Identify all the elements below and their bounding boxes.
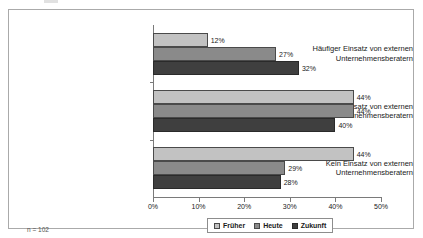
chart-frame: Häufiger Einsatz von externenUnternehmen… — [8, 9, 414, 229]
x-axis-tick — [199, 198, 200, 202]
bar[interactable] — [153, 104, 354, 118]
chart-figure: Häufiger Einsatz von externenUnternehmen… — [0, 0, 423, 238]
bar[interactable] — [153, 147, 354, 161]
legend-label-frueher: Früher — [223, 222, 245, 229]
x-axis-line — [153, 197, 382, 198]
bar-value-label: 44% — [357, 151, 371, 158]
bar-value-label: 27% — [279, 50, 293, 57]
bar[interactable] — [153, 90, 354, 104]
legend-item-0[interactable]: Früher — [214, 222, 245, 229]
bar-value-label: 28% — [284, 179, 298, 186]
scan-artifact — [44, 0, 58, 3]
legend-item-2[interactable]: Zukunft — [292, 222, 327, 229]
x-axis-tick — [244, 198, 245, 202]
category-label-line-0: Häufiger Einsatz von externen — [285, 44, 413, 54]
bar[interactable] — [153, 47, 276, 61]
x-axis-tick-label: 0% — [148, 203, 158, 210]
bar-value-label: 40% — [338, 122, 352, 129]
x-axis-tick — [335, 198, 336, 202]
bar[interactable] — [153, 175, 281, 189]
x-axis-tick — [290, 198, 291, 202]
sample-size-note: n = 102 — [27, 226, 49, 233]
legend-item-1[interactable]: Heute — [254, 222, 282, 229]
bar[interactable] — [153, 118, 335, 132]
bar-value-label: 12% — [211, 36, 225, 43]
bar-value-label: 44% — [357, 94, 371, 101]
x-axis-tick-label: 30% — [283, 203, 297, 210]
category-tick — [150, 82, 154, 83]
category-label-line-1: Unternehmensberatern — [285, 54, 413, 64]
legend-label-zukunft: Zukunft — [301, 222, 327, 229]
x-axis-tick-label: 10% — [192, 203, 206, 210]
bar[interactable] — [153, 61, 299, 75]
legend-swatch-frueher — [214, 223, 220, 229]
bar[interactable] — [153, 33, 208, 47]
x-axis-tick-label: 50% — [374, 203, 388, 210]
category-label: Häufiger Einsatz von externenUnternehmen… — [285, 44, 413, 63]
category-label: Kein Einsatz von externenUnternehmensber… — [285, 159, 413, 178]
x-axis-tick — [153, 198, 154, 202]
category-tick — [150, 140, 154, 141]
legend-label-heute: Heute — [263, 222, 282, 229]
x-axis-tick-label: 20% — [237, 203, 251, 210]
x-axis-tick-label: 40% — [328, 203, 342, 210]
legend-swatch-heute — [254, 223, 260, 229]
chart-legend: Früher Heute Zukunft — [207, 218, 333, 233]
legend-swatch-zukunft — [292, 223, 298, 229]
bar-value-label: 32% — [302, 64, 316, 71]
bar[interactable] — [153, 161, 285, 175]
bar-value-label: 44% — [357, 108, 371, 115]
category-label-line-1: Unternehmensberatern — [285, 168, 413, 178]
bar-value-label: 29% — [288, 165, 302, 172]
x-axis-tick — [381, 198, 382, 202]
